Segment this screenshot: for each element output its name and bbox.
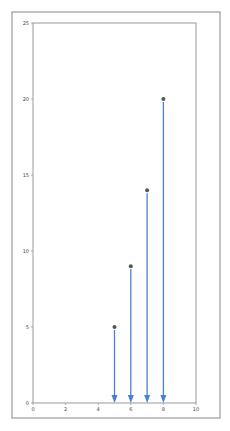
data-point-marker xyxy=(161,97,165,101)
x-tick-label: 2 xyxy=(64,406,67,412)
x-tick-label: 0 xyxy=(31,406,34,412)
y-tick-label: 25 xyxy=(23,20,29,26)
y-tick-label: 20 xyxy=(23,96,29,102)
figure-frame xyxy=(12,12,220,418)
x-tick-label: 8 xyxy=(162,406,165,412)
data-point-marker xyxy=(145,188,149,192)
y-tick-label: 5 xyxy=(26,324,29,330)
y-tick-label: 0 xyxy=(26,400,29,406)
data-point-marker xyxy=(129,264,133,268)
x-tick-label: 6 xyxy=(129,406,132,412)
y-tick-label: 15 xyxy=(23,172,29,178)
y-tick-label: 10 xyxy=(23,248,29,254)
chart-figure: 05101520250246810 xyxy=(0,0,230,431)
x-tick-label: 4 xyxy=(97,406,100,412)
x-tick-label: 10 xyxy=(193,406,199,412)
data-point-marker xyxy=(113,325,117,329)
